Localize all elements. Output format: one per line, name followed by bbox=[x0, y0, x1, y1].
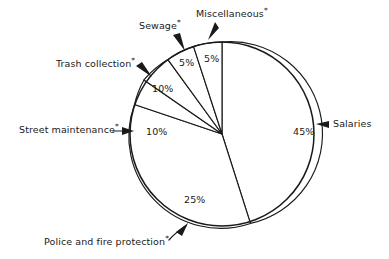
pie-category-label-police-and-fire-protection: Police and fire protection* bbox=[44, 236, 169, 247]
sewage-label-text: Sewage bbox=[139, 20, 177, 31]
pie-value-label-miscellaneous: 5% bbox=[204, 53, 219, 64]
pie-value-label-sewage: 5% bbox=[179, 57, 194, 68]
pie-chart: 45% 25% 10% 10% 5% 5% Salaries Miscellan… bbox=[0, 0, 389, 259]
pie-category-label-trash-collection: Trash collection* bbox=[56, 58, 135, 69]
trash-collection-asterisk: * bbox=[131, 56, 135, 65]
police-and-fire-protection-label-text: Police and fire protection bbox=[44, 236, 165, 247]
leader-miscellaneous bbox=[208, 22, 219, 40]
pie-category-label-sewage: Sewage* bbox=[139, 20, 181, 31]
trash-collection-label-text: Trash collection bbox=[56, 58, 131, 69]
salaries-label-text: Salaries bbox=[333, 118, 371, 129]
miscellaneous-label-text: Miscellaneous bbox=[196, 8, 264, 19]
street-maintenance-label-text: Street maintenance bbox=[19, 124, 115, 135]
leader-police-and-fire-protection bbox=[169, 223, 188, 240]
pie-category-label-salaries: Salaries bbox=[333, 118, 371, 129]
leader-trash-collection bbox=[136, 62, 152, 77]
pie-value-label-salaries: 45% bbox=[293, 126, 314, 137]
pie-value-label-street-maintenance: 10% bbox=[146, 126, 167, 137]
pie-value-label-trash-collection: 10% bbox=[152, 83, 173, 94]
police-and-fire-protection-asterisk: * bbox=[165, 234, 169, 243]
sewage-asterisk: * bbox=[177, 18, 181, 27]
leader-sewage bbox=[173, 33, 185, 51]
pie-value-label-police-and-fire-protection: 25% bbox=[184, 194, 205, 205]
miscellaneous-asterisk: * bbox=[264, 6, 268, 15]
pie-category-label-street-maintenance: Street maintenance* bbox=[19, 124, 119, 135]
street-maintenance-asterisk: * bbox=[115, 122, 119, 131]
pie-category-label-miscellaneous: Miscellaneous* bbox=[196, 8, 268, 19]
